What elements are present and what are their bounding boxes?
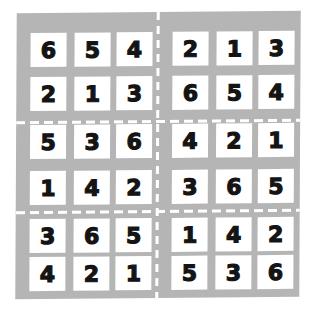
sudoku-cell-r2c5[interactable]: 5 [216,75,252,109]
sudoku-cell-r4c5[interactable]: 6 [216,169,252,203]
sudoku-board: 654213213654536421142365365142421536 [15,11,300,299]
sudoku-cell-r6c1[interactable]: 4 [29,257,65,291]
sudoku-cell-r6c2[interactable]: 2 [73,256,109,290]
sudoku-cell-r5c6[interactable]: 2 [257,217,293,251]
sudoku-cell-r2c6[interactable]: 4 [258,75,294,109]
sudoku-cell-r1c4[interactable]: 2 [172,32,208,66]
sudoku-cell-r3c1[interactable]: 5 [30,125,66,159]
sudoku-cell-r5c1[interactable]: 3 [29,219,65,253]
sudoku-cell-r6c6[interactable]: 6 [257,255,293,289]
sudoku-cell-r2c3[interactable]: 3 [116,76,152,110]
sudoku-cell-r4c1[interactable]: 1 [30,171,66,205]
sudoku-cell-r1c3[interactable]: 4 [116,32,152,66]
sudoku-cell-r5c5[interactable]: 4 [215,217,251,251]
sudoku-cell-r4c3[interactable]: 2 [116,170,152,204]
sudoku-cell-r2c4[interactable]: 6 [172,76,208,110]
sudoku-cell-r1c2[interactable]: 5 [74,32,110,66]
sudoku-cell-r1c1[interactable]: 6 [30,33,66,67]
sudoku-cell-r3c2[interactable]: 3 [74,124,110,158]
sudoku-cell-r2c2[interactable]: 1 [74,76,110,110]
sudoku-cell-r3c4[interactable]: 4 [172,124,208,158]
sudoku-cell-r4c4[interactable]: 3 [172,170,208,204]
sudoku-cell-r3c6[interactable]: 1 [258,123,294,157]
sudoku-cell-r5c4[interactable]: 1 [171,218,207,252]
sudoku-cell-r5c3[interactable]: 5 [115,218,151,252]
sudoku-cell-r2c1[interactable]: 2 [30,77,66,111]
sudoku-cell-r1c5[interactable]: 1 [216,31,252,65]
sudoku-cell-r3c3[interactable]: 6 [116,124,152,158]
sudoku-cell-r5c2[interactable]: 6 [73,218,109,252]
sudoku-cell-r6c4[interactable]: 5 [171,256,207,290]
sudoku-cell-r6c3[interactable]: 1 [115,256,151,290]
sudoku-cell-r4c6[interactable]: 5 [258,169,294,203]
box-divider-vertical [155,12,159,298]
sudoku-cell-r1c6[interactable]: 3 [258,31,294,65]
sudoku-cell-r6c5[interactable]: 3 [215,255,251,289]
sudoku-cell-r4c2[interactable]: 4 [74,170,110,204]
sudoku-cell-r3c5[interactable]: 2 [216,123,252,157]
